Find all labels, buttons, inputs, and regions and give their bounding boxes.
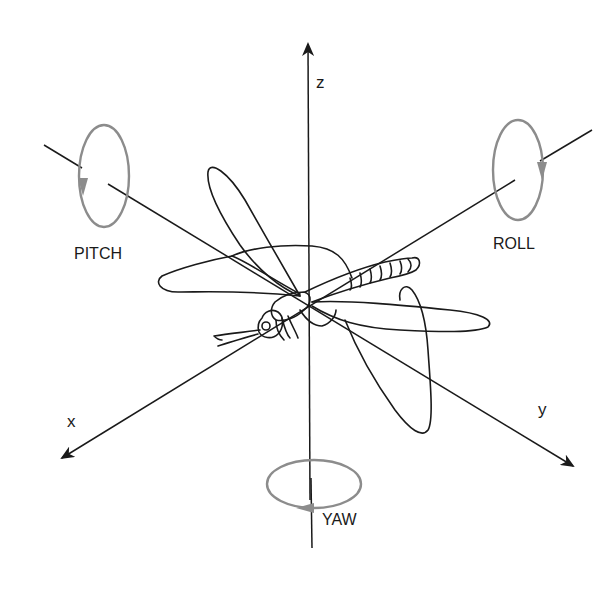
yaw-rotation-icon bbox=[267, 460, 361, 513]
wing-right bbox=[312, 302, 490, 332]
x-axis bbox=[62, 130, 592, 458]
body-lobe bbox=[300, 310, 336, 326]
roll-rotation-icon bbox=[493, 120, 547, 220]
pitch-label: PITCH bbox=[74, 246, 122, 262]
eye bbox=[262, 322, 270, 330]
wing-upper-left bbox=[208, 167, 300, 296]
pitch-rotation-icon bbox=[78, 125, 129, 227]
roll-arrow-icon bbox=[537, 162, 547, 180]
wing-left bbox=[159, 256, 300, 296]
x-axis-label: x bbox=[67, 413, 76, 430]
wing-lower-right bbox=[345, 287, 431, 433]
abdomen bbox=[305, 258, 419, 302]
antennae bbox=[214, 330, 260, 346]
diagram-canvas bbox=[0, 0, 615, 594]
z-axis-label: z bbox=[316, 74, 325, 91]
yaw-arrow-icon bbox=[296, 503, 314, 513]
wing-back-upper bbox=[232, 245, 352, 278]
y-axis-label: y bbox=[538, 401, 547, 418]
yaw-label: YAW bbox=[322, 512, 357, 528]
flight-axes-diagram: z x y PITCH ROLL YAW bbox=[0, 0, 615, 594]
roll-label: ROLL bbox=[493, 236, 535, 252]
dragonfly-illustration bbox=[159, 167, 490, 433]
